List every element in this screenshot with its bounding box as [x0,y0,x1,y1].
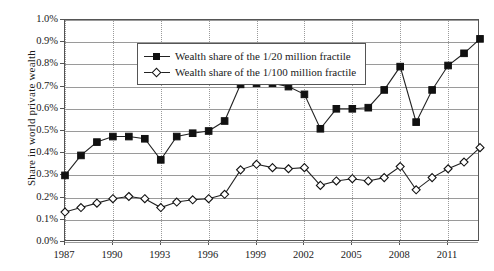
data-point-marker-diamond [380,174,388,182]
data-point-marker-diamond [157,204,165,212]
x-tick-label: 1993 [149,249,170,260]
data-point-marker-square [349,106,356,113]
data-point-marker-square [397,63,404,70]
data-point-marker-square [301,91,308,98]
data-point-marker-diamond [396,163,404,171]
data-point-marker-square [221,118,228,125]
data-point-marker-square [94,139,101,146]
data-point-marker-square [461,50,468,57]
data-point-marker-square [157,157,164,164]
x-tick-label: 1996 [197,249,218,260]
data-point-marker-square [317,125,324,132]
data-point-marker-square [189,130,196,137]
legend-swatch-diamond-icon [144,67,170,77]
data-point-marker-diamond [332,177,340,185]
data-point-marker-diamond [77,204,85,212]
data-point-marker-diamond [444,165,452,173]
data-point-marker-diamond [205,195,213,203]
gridline-horizontal [65,242,478,243]
data-point-marker-diamond [284,165,292,173]
x-tick-label: 2002 [293,249,314,260]
data-point-marker-square [477,36,484,43]
data-point-marker-diamond [125,192,133,200]
legend-label: Wealth share of the 1/20 million fractil… [175,50,351,62]
data-point-marker-square [413,119,420,126]
x-tick-label: 2011 [437,249,458,260]
data-point-marker-square [78,152,85,159]
data-point-marker-square [381,87,388,94]
data-point-marker-square [205,128,212,135]
data-point-marker-diamond [109,195,117,203]
series-line [65,148,480,212]
data-point-marker-square [173,133,180,140]
data-point-marker-square [62,172,69,179]
x-tick-label: 1990 [101,249,122,260]
chart-figure: Share in world private wealth 0.0%0.1%0.… [0,0,494,271]
data-point-marker-diamond [269,164,277,172]
data-point-marker-square [445,62,452,69]
x-tick-label: 2008 [389,249,410,260]
data-point-marker-diamond [253,160,261,168]
data-point-marker-square [142,135,149,142]
data-point-marker-diamond [364,177,372,185]
data-point-marker-square [333,106,340,113]
legend-swatch-square-icon [144,51,170,61]
data-point-marker-square [365,104,372,111]
data-point-marker-diamond [237,166,245,174]
x-tick-label: 2005 [341,249,362,260]
x-tick-label: 1987 [54,249,75,260]
data-point-marker-diamond [348,175,356,183]
data-point-marker-square [126,133,133,140]
data-point-marker-diamond [221,190,229,198]
data-point-marker-diamond [189,196,197,204]
data-point-marker-square [429,87,436,94]
legend-item-1: Wealth share of the 1/100 million fracti… [144,64,356,80]
x-tick-label: 1999 [245,249,266,260]
data-point-marker-diamond [141,195,149,203]
data-point-marker-diamond [93,199,101,207]
data-point-marker-square [110,133,117,140]
legend-label: Wealth share of the 1/100 million fracti… [175,66,356,78]
plot-area: Wealth share of the 1/20 million fractil… [64,19,479,241]
data-point-marker-diamond [173,198,181,206]
legend-item-0: Wealth share of the 1/20 million fractil… [144,48,356,64]
legend: Wealth share of the 1/20 million fractil… [137,43,366,85]
